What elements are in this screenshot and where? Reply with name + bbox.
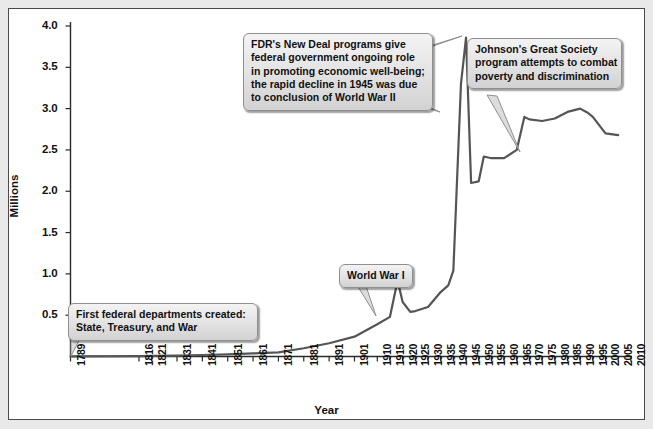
annotation-johnson: Johnson's Great Society program attempts… — [467, 38, 622, 89]
annotation-johnson-line-1: program attempts to combat — [475, 56, 614, 69]
chart-figure: Millions Year 0.51.01.52.02.53.03.54.0 1… — [0, 0, 653, 429]
annotation-johnson-line-2: poverty and discrimination — [475, 70, 614, 83]
annotation-fdr-line-4: to conclusion of World War II — [251, 91, 425, 104]
annotation-fdr-line-1: federal government ongoing role — [251, 51, 425, 64]
annotation-departments: First federal departments created: State… — [68, 303, 258, 341]
annotation-fdr-line-0: FDR's New Deal programs give — [251, 38, 425, 51]
annotation-johnson-line-0: Johnson's Great Society — [475, 43, 614, 56]
annotation-fdr-line-3: the rapid decline in 1945 was due — [251, 78, 425, 91]
annotation-departments-line-0: First federal departments created: — [76, 308, 250, 321]
annotation-fdr: FDR's New Deal programs give federal gov… — [243, 33, 433, 111]
annotation-fdr-line-2: in promoting economic well-being; — [251, 65, 425, 78]
annotation-departments-line-1: State, Treasury, and War — [76, 321, 250, 334]
annotation-wwi-line-0: World War I — [347, 269, 405, 282]
annotation-wwi: World War I — [339, 264, 413, 288]
